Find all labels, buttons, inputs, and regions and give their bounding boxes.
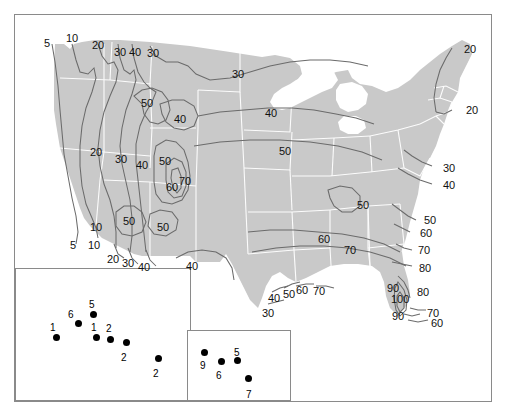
contour-label-50-tennessee: 50 xyxy=(357,200,369,211)
contour-label-10-california-south-coast: 10 xyxy=(88,240,100,251)
contour-label-20-washington-north: 20 xyxy=(92,40,104,51)
contour-label-90-florida-south: 90 xyxy=(392,311,404,322)
contour-label-30-north-dakota: 30 xyxy=(232,69,244,80)
contour-label-20-nevada-north: 20 xyxy=(90,147,102,158)
contour-label-5-california-south-coast: 5 xyxy=(70,240,76,251)
figure-canvas: 5102030403030504040203040505060701051050… xyxy=(0,0,506,416)
contour-label-40-texas-west: 40 xyxy=(186,261,198,272)
contour-label-30-texas-coast-south: 30 xyxy=(262,308,274,319)
site-label-alaska-2: 2 xyxy=(153,369,159,379)
contour-label-30-idaho-north: 30 xyxy=(114,47,126,58)
contour-label-40-texas-coast: 40 xyxy=(268,293,280,304)
site-label-alaska-1: 1 xyxy=(50,323,56,333)
contour-label-30-mid-atlantic-coast: 30 xyxy=(443,163,455,174)
site-marker-alaska-5[interactable] xyxy=(90,311,97,318)
site-label-alaska-6: 6 xyxy=(68,310,74,320)
contour-label-40-idaho-north: 40 xyxy=(129,47,141,58)
contour-label-60-florida-keys: 60 xyxy=(431,318,443,329)
site-label-alaska-2: 2 xyxy=(106,324,112,334)
contour-label-50-wyoming-north: 50 xyxy=(141,98,153,109)
site-label-hawaii-5: 5 xyxy=(234,348,240,358)
contour-label-70-colorado-south: 70 xyxy=(179,176,191,187)
contour-label-30-arizona-south: 30 xyxy=(122,258,134,269)
contour-label-50-iowa: 50 xyxy=(279,146,291,157)
site-marker-hawaii-7[interactable] xyxy=(245,375,252,382)
contour-label-40-minnesota-south: 40 xyxy=(265,108,277,119)
contour-label-50-texas-coast: 50 xyxy=(283,289,295,300)
contour-label-50-arizona-north: 50 xyxy=(123,216,135,227)
contour-label-60-arkansas-mississippi: 60 xyxy=(318,234,330,245)
site-marker-alaska-2[interactable] xyxy=(123,339,130,346)
contour-label-40-utah-east: 40 xyxy=(136,160,148,171)
site-label-hawaii-7: 7 xyxy=(246,390,252,400)
contour-label-10-california-south: 10 xyxy=(90,222,102,233)
contour-label-80-florida-east: 80 xyxy=(417,287,429,298)
contour-label-40-new-mexico-south: 40 xyxy=(138,262,150,273)
contour-label-20-arizona-south: 20 xyxy=(107,254,119,265)
contour-label-30-utah-north: 30 xyxy=(115,154,127,165)
inset-alaska xyxy=(15,268,191,401)
contour-label-30-montana-north: 30 xyxy=(147,48,159,59)
contour-label-20-new-england-coast: 20 xyxy=(466,105,478,116)
site-marker-alaska-1[interactable] xyxy=(93,334,100,341)
site-label-hawaii-6: 6 xyxy=(216,371,222,381)
contour-label-70-mississippi-alabama: 70 xyxy=(344,245,356,256)
contour-label-60-louisiana-coast: 60 xyxy=(296,285,308,296)
contour-label-40-mid-atlantic-coast: 40 xyxy=(443,180,455,191)
contour-label-50-colorado-west: 50 xyxy=(159,156,171,167)
contour-label-5-pacific-northwest-coast: 5 xyxy=(44,38,50,49)
site-marker-alaska-2[interactable] xyxy=(155,355,162,362)
site-marker-hawaii-6[interactable] xyxy=(218,358,225,365)
contour-label-50-carolina-coast: 50 xyxy=(424,215,436,226)
contour-label-80-florida-north: 80 xyxy=(419,263,431,274)
contour-label-60-carolina-coast: 60 xyxy=(420,228,432,239)
contour-label-70-georgia-coast: 70 xyxy=(418,245,430,256)
site-label-alaska-5: 5 xyxy=(89,300,95,310)
contour-label-20-maine-coast: 20 xyxy=(464,44,476,55)
site-marker-hawaii-9[interactable] xyxy=(201,349,208,356)
site-marker-alaska-2[interactable] xyxy=(107,336,114,343)
site-label-hawaii-9: 9 xyxy=(200,361,206,371)
site-label-alaska-1: 1 xyxy=(91,323,97,333)
site-label-alaska-2: 2 xyxy=(121,353,127,363)
site-marker-alaska-1[interactable] xyxy=(53,334,60,341)
contour-label-10-pacific-northwest-coast: 10 xyxy=(66,33,78,44)
contour-label-50-new-mexico-north: 50 xyxy=(157,222,169,233)
site-marker-alaska-6[interactable] xyxy=(75,320,82,327)
contour-label-100-florida-central: 100 xyxy=(391,294,409,305)
contour-label-40-wyoming-east: 40 xyxy=(174,114,186,125)
contour-label-70-louisiana-coast: 70 xyxy=(313,286,325,297)
contour-label-60-colorado-south: 60 xyxy=(166,182,178,193)
